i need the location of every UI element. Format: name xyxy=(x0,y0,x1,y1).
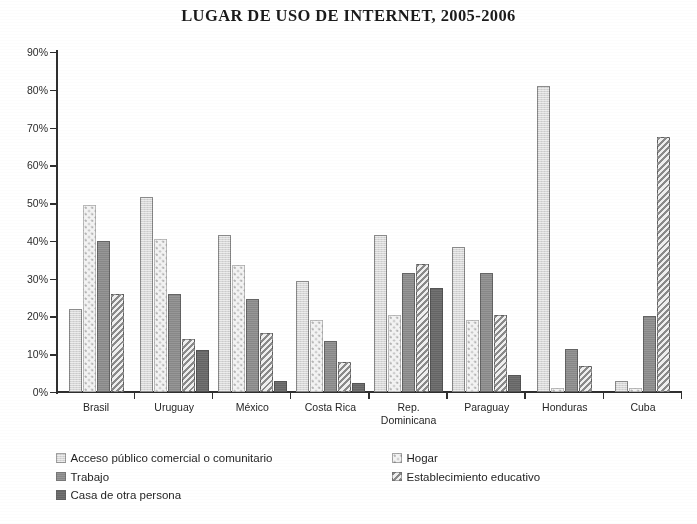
legend-column-left: Acceso público comercial o comunitarioTr… xyxy=(56,451,392,502)
bar-group xyxy=(57,52,135,392)
bar-acceso xyxy=(374,235,387,392)
x-axis-category-label-line1: Uruguay xyxy=(154,401,194,413)
y-axis-tick-label: 90% xyxy=(4,46,48,58)
bar-trabajo xyxy=(480,273,493,392)
bar-group xyxy=(448,52,526,392)
x-axis-category-label-line1: Rep. xyxy=(397,401,419,413)
chart-title: LUGAR DE USO DE INTERNET, 2005-2006 xyxy=(0,6,697,26)
x-axis-category-label-line1: Paraguay xyxy=(464,401,509,413)
y-axis-tick-label: 60% xyxy=(4,159,48,171)
legend-item: Acceso público comercial o comunitario xyxy=(56,451,392,465)
legend-swatch-icon xyxy=(392,472,402,482)
bar-educativo xyxy=(579,366,592,392)
x-axis-tick xyxy=(135,392,213,399)
bar-trabajo xyxy=(565,349,578,392)
bar-group xyxy=(291,52,369,392)
bar-trabajo xyxy=(402,273,415,392)
legend-item: Casa de otra persona xyxy=(56,488,392,502)
legend-item-label: Establecimiento educativo xyxy=(407,471,541,483)
bar-hogar xyxy=(388,315,401,392)
chart-legend: Acceso público comercial o comunitarioTr… xyxy=(56,451,656,502)
x-axis-tick xyxy=(213,392,291,399)
y-axis-tick-label: 10% xyxy=(4,348,48,360)
bar-hogar xyxy=(466,320,479,392)
bar-hogar xyxy=(154,239,167,392)
bar-educativo xyxy=(182,339,195,392)
x-axis-category-label-line1: Costa Rica xyxy=(305,401,356,413)
legend-swatch-icon xyxy=(56,453,66,463)
bar-acceso xyxy=(69,309,82,392)
legend-item: Trabajo xyxy=(56,470,392,484)
bar-groups xyxy=(57,52,682,392)
legend-item-label: Casa de otra persona xyxy=(71,489,182,501)
legend-item: Hogar xyxy=(392,451,652,465)
bar-trabajo xyxy=(246,299,259,392)
legend-column-right: HogarEstablecimiento educativo xyxy=(392,451,652,502)
bar-educativo xyxy=(416,264,429,392)
x-axis-tick xyxy=(370,392,448,399)
x-axis-tick xyxy=(526,392,604,399)
bar-hogar xyxy=(83,205,96,392)
x-axis-category-label: México xyxy=(213,401,291,426)
bar-group xyxy=(213,52,291,392)
x-axis-ticks xyxy=(57,392,682,399)
legend-swatch-icon xyxy=(56,472,66,482)
bar-educativo xyxy=(657,137,670,392)
y-axis-tick-label: 70% xyxy=(4,122,48,134)
x-axis-category-label: Brasil xyxy=(57,401,135,426)
x-axis-labels: BrasilUruguayMéxicoCosta RicaRep.Dominic… xyxy=(57,401,682,426)
bar-hogar xyxy=(310,320,323,392)
x-axis-tick xyxy=(291,392,369,399)
x-axis-tick xyxy=(604,392,682,399)
x-axis-category-label-line1: Honduras xyxy=(542,401,588,413)
x-axis-tick xyxy=(57,392,135,399)
bar-trabajo xyxy=(97,241,110,392)
y-axis-labels: 90%80%70%60%50%40%30%20%10%0% xyxy=(0,0,48,524)
legend-item-label: Trabajo xyxy=(71,471,110,483)
legend-item-label: Hogar xyxy=(407,452,438,464)
legend-swatch-icon xyxy=(56,490,66,500)
x-axis-category-label-line2: Dominicana xyxy=(370,414,448,427)
bar-group xyxy=(604,52,682,392)
bar-casa xyxy=(352,383,365,392)
bar-trabajo xyxy=(643,316,656,392)
x-axis-category-label-line1: Cuba xyxy=(630,401,655,413)
x-axis-category-label: Rep.Dominicana xyxy=(370,401,448,426)
bar-acceso xyxy=(140,197,153,392)
bar-casa xyxy=(430,288,443,392)
y-axis-tick-label: 80% xyxy=(4,84,48,96)
legend-swatch-icon xyxy=(392,453,402,463)
bar-educativo xyxy=(111,294,124,392)
bar-acceso xyxy=(296,281,309,392)
x-axis-category-label: Honduras xyxy=(526,401,604,426)
bar-educativo xyxy=(338,362,351,392)
bar-trabajo xyxy=(168,294,181,392)
y-axis-tick-label: 30% xyxy=(4,273,48,285)
y-axis-tick-label: 20% xyxy=(4,310,48,322)
bar-group xyxy=(370,52,448,392)
x-axis-tick xyxy=(448,392,526,399)
bar-casa xyxy=(508,375,521,392)
x-axis-category-label: Uruguay xyxy=(135,401,213,426)
bar-group xyxy=(135,52,213,392)
y-axis-tick-label: 0% xyxy=(4,386,48,398)
legend-item-label: Acceso público comercial o comunitario xyxy=(71,452,273,464)
bar-educativo xyxy=(494,315,507,392)
bar-casa xyxy=(274,381,287,392)
bar-hogar xyxy=(232,265,245,392)
x-axis-category-label: Costa Rica xyxy=(291,401,369,426)
bar-acceso xyxy=(218,235,231,392)
bar-group xyxy=(526,52,604,392)
bar-educativo xyxy=(260,333,273,392)
bar-acceso xyxy=(615,381,628,392)
bar-acceso xyxy=(452,247,465,392)
y-axis-tick-label: 40% xyxy=(4,235,48,247)
x-axis-category-label: Cuba xyxy=(604,401,682,426)
bar-acceso xyxy=(537,86,550,392)
y-axis-tick-label: 50% xyxy=(4,197,48,209)
x-axis-category-label: Paraguay xyxy=(448,401,526,426)
bar-casa xyxy=(196,350,209,392)
x-axis-category-label-line1: Brasil xyxy=(83,401,109,413)
x-axis-category-label-line1: México xyxy=(236,401,269,413)
bar-trabajo xyxy=(324,341,337,392)
